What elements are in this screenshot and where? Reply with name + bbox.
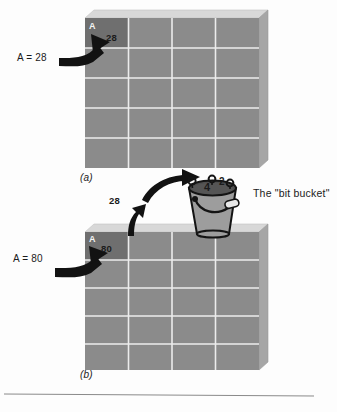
footer-rule (4, 394, 314, 396)
footer-rule-graphics (0, 0, 337, 412)
figure-memory-assignment: A = 28 A 28 (a) A = 80 A 80 (0, 0, 337, 412)
